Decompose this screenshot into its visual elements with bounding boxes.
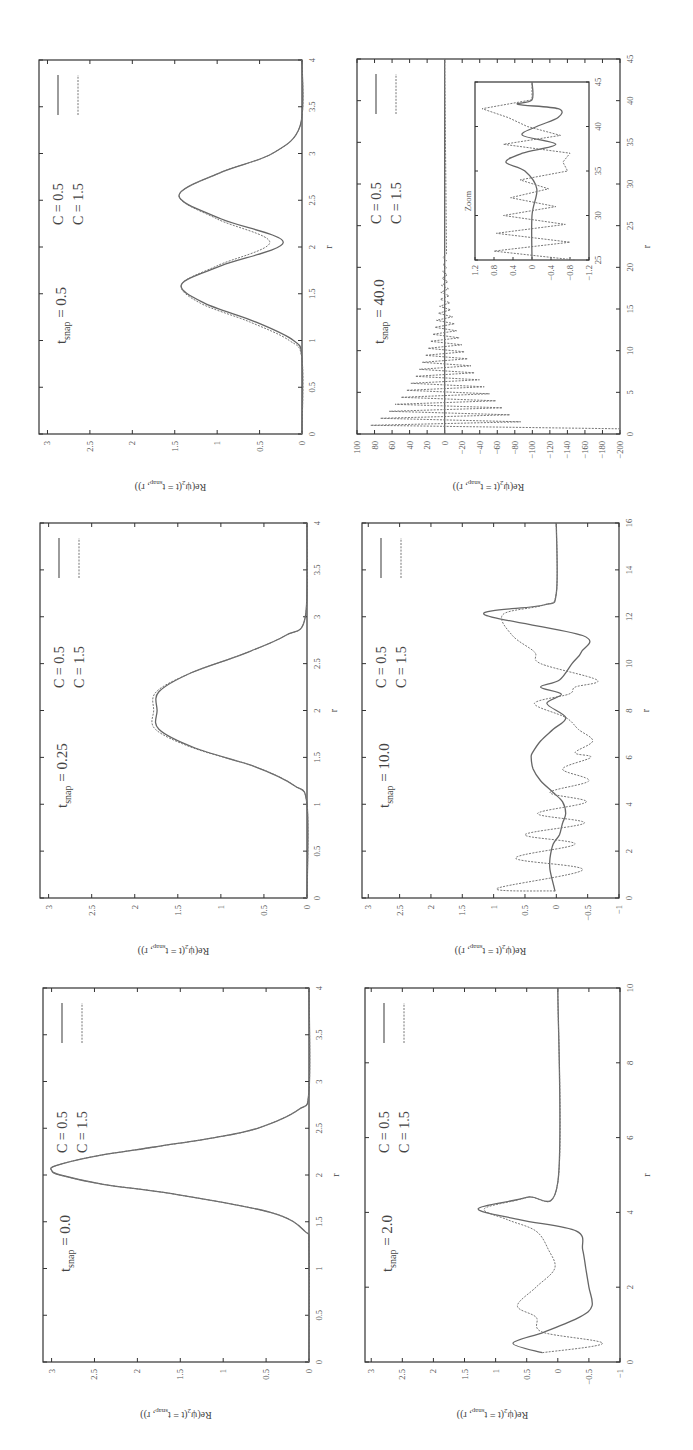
value-tick-label: 1.5	[173, 905, 183, 916]
r-tick-label: 30	[625, 180, 635, 189]
y-axis-label: Re(ψ2(t = tsnap, r))	[455, 943, 527, 957]
inset-value-tick-label: −1.2	[584, 265, 594, 280]
panel-tsnap-0.25: 00.511.522.533.5400.511.522.53rRe(ψ2(t =…	[40, 520, 339, 957]
r-tick-label: 2	[624, 849, 634, 853]
inset-value-tick-label: 1.2	[470, 265, 480, 276]
r-tick-label: 0	[312, 896, 322, 900]
series-line	[478, 988, 592, 1353]
r-tick-label: 16	[624, 519, 634, 528]
r-tick-label: 1	[314, 1266, 324, 1270]
value-tick-label: −180	[597, 441, 607, 459]
series-line	[497, 523, 598, 891]
value-tick-label: −1	[615, 1369, 625, 1378]
panel-tsnap-40.0: 051015202530354045−200−180−160−140−120−1…	[352, 55, 652, 493]
r-tick-label: 10	[624, 659, 634, 668]
value-tick-label: −0.5	[583, 905, 593, 920]
r-tick-label: 2.5	[307, 195, 317, 206]
value-tick-label: 0	[553, 1369, 563, 1373]
y-axis-label: Re(ψ2(t = tsnap, r))	[140, 1407, 212, 1421]
legend-label-c05: C = 0.5	[55, 1111, 70, 1153]
tsnap-annotation: tsnap = 2.0	[379, 1215, 398, 1272]
value-tick-label: 1	[491, 1369, 501, 1373]
legend-label-c15: C = 1.5	[394, 646, 409, 688]
plot-frame	[365, 988, 620, 1362]
r-tick-label: 1.5	[312, 752, 322, 763]
value-tick-label: 1.5	[460, 1369, 470, 1380]
value-tick-label: −160	[580, 441, 590, 459]
value-tick-label: 0.5	[261, 1369, 271, 1380]
tsnap-annotation: tsnap = 0.25	[54, 743, 73, 808]
r-tick-label: 10	[625, 984, 635, 993]
r-tick-label: 2	[307, 245, 317, 249]
plot-frame	[43, 988, 309, 1362]
legend-label-c05: C = 0.5	[377, 1111, 392, 1153]
r-tick-label: 4	[314, 985, 324, 990]
value-tick-label: 0	[302, 905, 312, 909]
r-tick-label: 40	[625, 96, 635, 105]
legend-label-c05: C = 0.5	[374, 646, 389, 688]
series-line	[156, 523, 308, 898]
x-axis-label: r	[330, 1173, 341, 1177]
value-tick-label: −40	[475, 441, 485, 454]
value-tick-label: 0	[304, 1369, 314, 1373]
r-tick-label: 3	[312, 615, 322, 619]
value-tick-label: −100	[527, 441, 537, 459]
inset-r-tick-label: 30	[593, 211, 603, 220]
r-tick-label: 10	[625, 346, 635, 355]
value-tick-label: −120	[545, 441, 555, 459]
value-tick-label: 2.5	[89, 1369, 99, 1380]
series-line	[179, 60, 303, 434]
value-tick-label: 0	[297, 441, 307, 445]
plot-frame	[357, 59, 620, 434]
r-tick-label: 0	[307, 432, 317, 436]
value-tick-label: 1.5	[170, 441, 180, 452]
r-tick-label: 0.5	[314, 1310, 324, 1321]
value-tick-label: 1	[489, 905, 499, 909]
series-line	[484, 523, 590, 891]
r-tick-label: 2.5	[314, 1123, 324, 1134]
value-tick-label: 80	[370, 441, 380, 450]
inset-r-tick-label: 40	[593, 122, 603, 131]
value-tick-label: 100	[352, 441, 362, 454]
value-tick-label: 3	[366, 1369, 376, 1373]
inset-r-tick-label: 45	[593, 78, 603, 87]
inset-value-tick-label: 0	[527, 265, 537, 269]
value-tick-label: 0.5	[522, 1369, 532, 1380]
inset-value-tick-label: 0.4	[508, 264, 518, 275]
value-tick-label: 2	[130, 905, 140, 909]
value-tick-label: 0.5	[259, 905, 269, 916]
value-tick-label: 2.5	[395, 905, 405, 916]
value-tick-label: 1	[216, 905, 226, 909]
r-tick-label: 1	[312, 802, 322, 806]
value-tick-label: 40	[405, 441, 415, 450]
tsnap-annotation: tsnap = 0.0	[57, 1215, 76, 1272]
r-tick-label: 1	[307, 338, 317, 342]
value-tick-label: 3	[363, 905, 373, 909]
inset-r-tick-label: 35	[593, 167, 603, 176]
tsnap-annotation: tsnap = 0.5	[53, 287, 72, 344]
r-tick-label: 1.5	[307, 288, 317, 299]
inset-title: Zoom	[463, 190, 473, 211]
value-tick-label: −200	[615, 441, 625, 459]
value-tick-label: −20	[457, 441, 467, 454]
inset-value-tick-label: −0.4	[546, 264, 556, 280]
value-tick-label: 2	[132, 1369, 142, 1373]
r-tick-label: 12	[624, 613, 634, 622]
r-tick-label: 0.5	[307, 382, 317, 393]
legend-label-c15: C = 1.5	[72, 646, 87, 688]
r-tick-label: 2	[312, 708, 322, 712]
inset-value-tick-label: −0.8	[565, 265, 575, 280]
r-tick-label: 45	[625, 55, 635, 64]
r-tick-label: 5	[625, 390, 635, 394]
inset-series-line	[506, 82, 562, 260]
figure-canvas: 00.511.522.533.5400.511.522.53rRe(ψ2(t =…	[0, 0, 693, 1450]
inset-zoom: 2530354045−1.2−0.8−0.400.40.81.2Zoom	[463, 78, 603, 281]
r-tick-label: 0	[314, 1360, 324, 1364]
plot-frame	[362, 523, 619, 898]
legend-label-c15: C = 1.5	[397, 1111, 412, 1153]
value-tick-label: −60	[492, 441, 502, 454]
x-axis-label: r	[328, 708, 339, 712]
r-tick-label: 0	[625, 432, 635, 436]
value-tick-label: 2	[127, 441, 137, 445]
series-line	[51, 988, 310, 1362]
